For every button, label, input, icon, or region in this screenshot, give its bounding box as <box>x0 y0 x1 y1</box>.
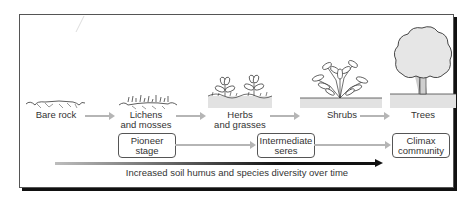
arrow-herbs-to-shrubs <box>270 115 296 117</box>
phase-box-pioneer: Pioneer stage <box>118 133 176 158</box>
phase-label-line: seres <box>274 146 297 156</box>
stage-label-herbs: Herbs and grasses <box>210 110 270 130</box>
stage-label-trees: Trees <box>393 110 453 120</box>
stage-label-line: and mosses <box>116 120 176 130</box>
arrow-lichens-to-herbs <box>176 115 202 117</box>
shrub-icon <box>300 60 382 110</box>
phase-label-line: Pioneer <box>131 136 164 146</box>
stage-label-line: Trees <box>393 110 453 120</box>
decorative-stroke <box>70 14 90 34</box>
trend-label: Increased soil humus and species diversi… <box>0 167 474 178</box>
stage-label-lichens: Lichens and mosses <box>116 110 176 130</box>
phase-label-line: Climax <box>406 136 435 146</box>
phase-box-intermediate: Intermediate seres <box>257 133 315 158</box>
stage-label-line: and grasses <box>210 120 270 130</box>
arrow-intermediate-to-climax <box>314 144 387 146</box>
trend-arrow <box>55 162 377 165</box>
phase-box-climax: Climax community <box>392 133 450 158</box>
tree-icon <box>390 24 456 112</box>
phase-label-line: stage <box>135 146 158 156</box>
arrow-rock-to-lichens <box>85 115 111 117</box>
herbs-grasses-icon <box>208 76 272 110</box>
stage-label-bare-rock: Bare rock <box>30 110 82 120</box>
phase-label-line: Intermediate <box>260 136 313 146</box>
stage-label-line: Bare rock <box>30 110 82 120</box>
phase-label-line: community <box>398 146 444 156</box>
arrow-pioneer-to-intermediate <box>175 144 252 146</box>
arrow-shrubs-to-trees <box>360 115 386 117</box>
